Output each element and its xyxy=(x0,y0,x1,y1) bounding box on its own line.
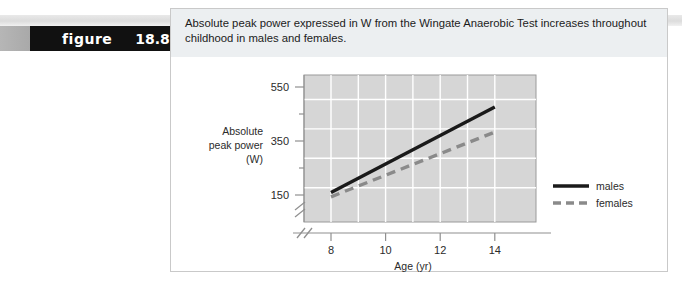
figure-label-plate: figure 18.8 xyxy=(30,26,170,51)
y-axis-title-line2: peak power xyxy=(209,139,264,151)
y-axis-ticks xyxy=(295,87,304,195)
y-axis-title-line1: Absolute xyxy=(222,125,263,137)
y-axis-title-line3: (W) xyxy=(246,153,263,165)
x-tick-label-14: 14 xyxy=(489,244,501,256)
chart-legend: males females xyxy=(553,180,633,209)
x-axis-ticks xyxy=(331,233,495,241)
caption-strip: Absolute peak power expressed in W from … xyxy=(171,9,667,57)
x-tick-label-10: 10 xyxy=(379,244,391,256)
y-tick-label-550: 550 xyxy=(271,81,289,93)
figure-content-card: Absolute peak power expressed in W from … xyxy=(170,8,668,272)
y-tick-label-150: 150 xyxy=(271,189,289,201)
x-axis-title: Age (yr) xyxy=(394,260,431,272)
x-tick-label-12: 12 xyxy=(434,244,446,256)
figure-caption: Absolute peak power expressed in W from … xyxy=(185,16,653,46)
left-gray-bar xyxy=(0,26,30,51)
line-chart: 550 350 150 Absolute peak power (W) 8 10… xyxy=(171,57,669,272)
legend-label-females: females xyxy=(596,197,633,209)
chart-container: 550 350 150 Absolute peak power (W) 8 10… xyxy=(171,57,667,272)
plot-area-background xyxy=(304,75,536,222)
legend-label-males: males xyxy=(596,180,624,192)
y-tick-label-350: 350 xyxy=(271,135,289,147)
figure-number-label: 18.8 xyxy=(135,31,170,47)
x-tick-label-8: 8 xyxy=(328,244,334,256)
figure-word-label: figure xyxy=(62,31,112,47)
